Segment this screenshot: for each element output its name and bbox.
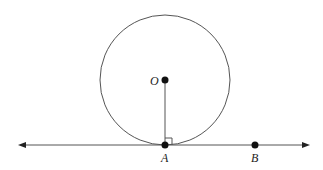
label-o: O — [150, 74, 159, 88]
tangent-diagram: O A B — [0, 0, 323, 170]
point-a — [162, 142, 169, 149]
diagram-canvas: O A B — [0, 0, 323, 170]
arrow-left-icon — [18, 142, 26, 148]
point-o — [162, 77, 169, 84]
label-b: B — [251, 151, 259, 165]
arrow-right-icon — [302, 142, 310, 148]
point-b — [252, 142, 259, 149]
label-a: A — [160, 151, 169, 165]
